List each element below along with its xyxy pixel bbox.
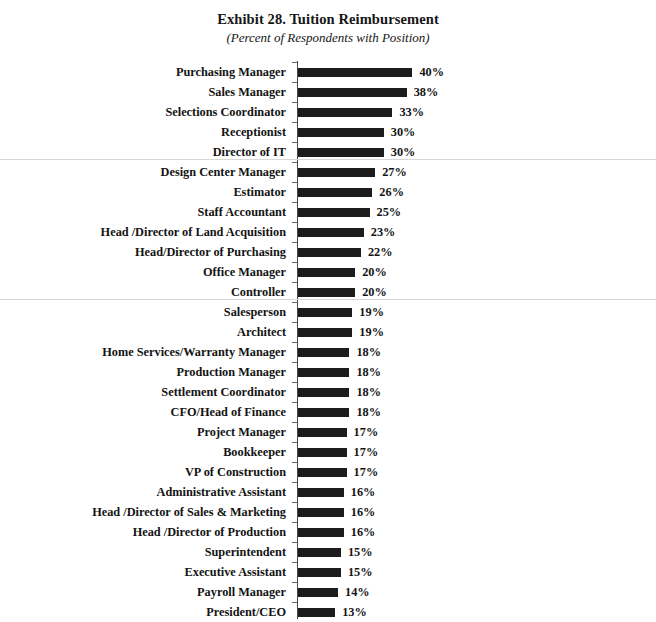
bar-value-label: 26% [379,182,404,202]
bar [298,188,372,197]
bar [298,328,352,337]
bar-row: Head /Director of Production16% [0,522,656,542]
axis-tick [292,282,297,283]
bar [298,288,355,297]
axis-tick [292,382,297,383]
category-label: President/CEO [6,602,286,622]
bar [298,228,364,237]
group-separator [0,159,656,160]
category-label: VP of Construction [6,462,286,482]
axis-tick [292,462,297,463]
bar-value-label: 17% [354,462,379,482]
axis-tick [292,102,297,103]
bar [298,88,407,97]
bar [298,208,370,217]
axis-tick [292,262,297,263]
bar-row: Purchasing Manager40% [0,62,656,82]
axis-tick [292,442,297,443]
category-label: Estimator [6,182,286,202]
category-label: Settlement Coordinator [6,382,286,402]
bar-row: Architect19% [0,322,656,342]
bar [298,308,352,317]
category-label: Sales Manager [6,82,286,102]
bar-value-label: 19% [359,322,384,342]
bar-row: Production Manager18% [0,362,656,382]
bar [298,388,349,397]
axis-tick [292,322,297,323]
category-label: Administrative Assistant [6,482,286,502]
chart-subtitle: (Percent of Respondents with Position) [0,29,656,47]
axis-tick [292,342,297,343]
axis-tick [292,602,297,603]
axis-tick [292,302,297,303]
bar [298,248,361,257]
bar [298,528,344,537]
axis-tick [292,82,297,83]
bar-value-label: 20% [362,262,387,282]
bar-value-label: 18% [356,362,381,382]
axis-tick [292,242,297,243]
bar-value-label: 15% [348,562,373,582]
bar-value-label: 18% [356,382,381,402]
bar [298,408,349,417]
category-label: Design Center Manager [6,162,286,182]
bar-row: Estimator26% [0,182,656,202]
bar [298,168,375,177]
bar [298,608,335,617]
bar-value-label: 25% [377,202,402,222]
bar-row: Head /Director of Land Acquisition23% [0,222,656,242]
axis-tick [292,502,297,503]
axis-tick [292,182,297,183]
axis-tick [292,422,297,423]
category-label: Staff Accountant [6,202,286,222]
bar-row: Staff Accountant25% [0,202,656,222]
bar-value-label: 38% [414,82,439,102]
bar-row: Selections Coordinator33% [0,102,656,122]
bar-row: CFO/Head of Finance18% [0,402,656,422]
axis-tick [292,522,297,523]
bar [298,128,384,137]
bar-value-label: 17% [354,442,379,462]
category-label: Head /Director of Sales & Marketing [6,502,286,522]
category-label: CFO/Head of Finance [6,402,286,422]
bar-value-label: 17% [354,422,379,442]
group-separator [0,299,656,300]
axis-tick [292,362,297,363]
bar [298,548,341,557]
axis-tick [292,222,297,223]
bar-value-label: 27% [382,162,407,182]
axis-tick [292,562,297,563]
bar [298,568,341,577]
bar-value-label: 16% [351,522,376,542]
category-label: Executive Assistant [6,562,286,582]
category-label: Office Manager [6,262,286,282]
bar-value-label: 33% [399,102,424,122]
bar-row: Salesperson19% [0,302,656,322]
bar-value-label: 40% [419,62,444,82]
plot-area: Purchasing Manager40%Sales Manager38%Sel… [0,61,656,581]
bar [298,348,349,357]
bar-row: Project Manager17% [0,422,656,442]
bar-value-label: 16% [351,502,376,522]
bar-value-label: 22% [368,242,393,262]
category-label: Bookkeeper [6,442,286,462]
bar-row: Office Manager20% [0,262,656,282]
bar-row: Settlement Coordinator18% [0,382,656,402]
category-label: Production Manager [6,362,286,382]
category-label: Payroll Manager [6,582,286,602]
bar-row: Sales Manager38% [0,82,656,102]
chart-title-block: Exhibit 28. Tuition Reimbursement (Perce… [0,10,656,47]
axis-tick [292,542,297,543]
category-label: Head /Director of Land Acquisition [6,222,286,242]
category-label: Superintendent [6,542,286,562]
category-label: Head /Director of Production [6,522,286,542]
axis-tick [292,402,297,403]
axis-tick [292,122,297,123]
bar-value-label: 30% [391,122,416,142]
axis-tick [292,162,297,163]
bar-row: Head /Director of Sales & Marketing16% [0,502,656,522]
bar-row: President/CEO13% [0,602,656,622]
bar-row: Superintendent15% [0,542,656,562]
axis-tick [292,582,297,583]
bar-row: Design Center Manager27% [0,162,656,182]
